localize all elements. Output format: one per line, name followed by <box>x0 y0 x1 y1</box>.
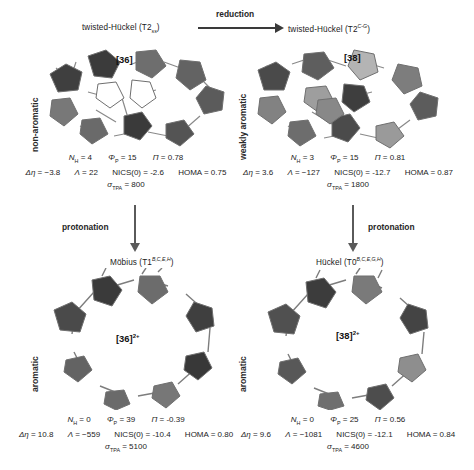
data-block-top-right: NH = 3 ΦP = 15 Π = 0.81 Δη = 3.6 Λ = −12… <box>228 152 468 194</box>
data-phi: ΦP = 25 <box>330 414 358 429</box>
data-homa: HOMA = 0.87 <box>405 167 453 179</box>
tag-text: [38] <box>344 52 361 63</box>
data-lambda: Λ = −559 <box>68 429 101 441</box>
tag-charge: 2+ <box>133 333 140 339</box>
data-homa: HOMA = 0.84 <box>407 429 455 441</box>
data-sigma-tpa: σTPA = 4600 <box>327 441 369 456</box>
data-lambda: Λ = −127 <box>287 167 320 179</box>
data-row-2: Δη = −3.8 Λ = 22 NICS(0) = -2.6 HOMA = 0… <box>6 167 246 179</box>
data-row-1: NH = 0 ΦP = 39 Π = -0.39 <box>6 414 246 429</box>
structure-tag-bottom-left: [36]2+ <box>116 333 140 344</box>
reduction-arrow <box>198 23 284 33</box>
data-nh: NH = 3 <box>291 152 314 167</box>
data-homa: HOMA = 0.75 <box>178 167 226 179</box>
protonation-label-left: protonation <box>62 222 109 232</box>
data-delta-eta: Δη = 3.6 <box>243 167 273 179</box>
structure-tag-top-right: [38] <box>344 52 361 63</box>
data-pi: Π = 0.56 <box>375 414 406 426</box>
structure-tag-bottom-right: [38]2+ <box>336 330 360 341</box>
title-symbol: T2 <box>142 23 152 32</box>
data-pi: Π = 0.81 <box>375 152 406 164</box>
data-row-2: Δη = 10.8 Λ = −559 NICS(0) = -10.4 HOMA … <box>6 429 246 441</box>
panel-title-bottom-left: Möbius (T1B,C,E,H) <box>110 256 174 267</box>
structure-bottom-left <box>50 268 230 410</box>
protonation-arrow-left <box>130 205 140 251</box>
data-lambda: Λ = −1081 <box>285 429 322 441</box>
data-row-1: NH = 0 ΦP = 25 Π = 0.56 <box>228 414 468 429</box>
data-block-bottom-left: NH = 0 ΦP = 39 Π = -0.39 Δη = 10.8 Λ = −… <box>6 414 246 456</box>
data-nics: NICS(0) = -2.6 <box>112 167 164 179</box>
data-sigma-tpa: σTPA = 1800 <box>327 179 369 194</box>
title-text: twisted-Hückel ( <box>288 25 348 34</box>
side-label-aromatic-right: aromatic <box>238 356 248 392</box>
data-nh: NH = 0 <box>67 414 90 429</box>
tag-text: [36] <box>116 54 133 65</box>
data-row-3: σTPA = 5100 <box>6 441 246 456</box>
data-nics: NICS(0) = -10.4 <box>114 429 170 441</box>
protonation-label-right: protonation <box>368 222 415 232</box>
data-block-top-left: NH = 4 ΦP = 15 Π = 0.78 Δη = −3.8 Λ = 22… <box>6 152 246 194</box>
data-homa: HOMA = 0.80 <box>185 429 233 441</box>
title-close: ) <box>171 258 174 267</box>
data-phi: ΦP = 15 <box>108 152 136 167</box>
title-text: Möbius ( <box>110 258 142 267</box>
protonation-arrow-right <box>348 205 358 251</box>
panel-title-top-left: twisted-Hückel (T2ss) <box>82 23 160 34</box>
panel-title-bottom-right: Hückel (T0B,C,E,G,H) <box>316 256 384 267</box>
title-symbol: T2 <box>348 25 358 34</box>
title-close: ) <box>367 25 370 34</box>
data-delta-eta: Δη = 9.6 <box>241 429 271 441</box>
data-pi: Π = 0.78 <box>153 152 184 164</box>
data-phi: ΦP = 39 <box>107 414 135 429</box>
title-close: ) <box>157 23 160 32</box>
title-affix: B,C,E,G,H <box>357 256 381 262</box>
data-row-1: NH = 3 ΦP = 15 Π = 0.81 <box>228 152 468 167</box>
title-text: twisted-Hückel ( <box>82 23 142 32</box>
figure-root: non-aromatic weakly aromatic aromatic ar… <box>0 0 474 470</box>
title-close: ) <box>381 258 384 267</box>
title-text: Hückel ( <box>316 258 347 267</box>
tag-text: [36] <box>116 333 133 344</box>
data-sigma-tpa: σTPA = 5100 <box>105 441 147 456</box>
data-delta-eta: Δη = 10.8 <box>19 429 54 441</box>
data-pi: Π = -0.39 <box>151 414 184 426</box>
side-label-aromatic-left: aromatic <box>30 356 40 392</box>
structure-top-left <box>36 40 232 152</box>
data-sigma-tpa: σTPA = 800 <box>107 179 144 194</box>
data-nh: NH = 0 <box>291 414 314 429</box>
data-row-3: σTPA = 1800 <box>228 179 468 194</box>
title-symbol: T0 <box>347 258 357 267</box>
data-block-bottom-right: NH = 0 ΦP = 25 Π = 0.56 Δη = 9.6 Λ = −10… <box>228 414 468 456</box>
structure-tag-top-left: [36] <box>116 54 133 65</box>
data-nics: NICS(0) = -12.1 <box>336 429 392 441</box>
title-affix: B,C,E,H <box>152 256 171 262</box>
data-row-3: σTPA = 4600 <box>228 441 468 456</box>
data-row-1: NH = 4 ΦP = 15 Π = 0.78 <box>6 152 246 167</box>
title-affix: C-G <box>358 23 368 29</box>
side-label-weakly-aromatic: weakly aromatic <box>238 94 248 160</box>
tag-text: [38] <box>336 330 353 341</box>
tag-charge: 2+ <box>353 330 360 336</box>
data-nics: NICS(0) = -12.7 <box>334 167 390 179</box>
data-nh: NH = 4 <box>69 152 92 167</box>
data-delta-eta: Δη = −3.8 <box>26 167 61 179</box>
data-phi: ΦP = 15 <box>330 152 358 167</box>
panel-title-top-right: twisted-Hückel (T2C-G) <box>288 23 370 34</box>
data-row-2: Δη = 9.6 Λ = −1081 NICS(0) = -12.1 HOMA … <box>228 429 468 441</box>
title-symbol: T1 <box>142 258 152 267</box>
data-row-2: Δη = 3.6 Λ = −127 NICS(0) = -12.7 HOMA =… <box>228 167 468 179</box>
reduction-label: reduction <box>216 9 254 19</box>
data-row-3: σTPA = 800 <box>6 179 246 194</box>
data-lambda: Λ = 22 <box>75 167 98 179</box>
